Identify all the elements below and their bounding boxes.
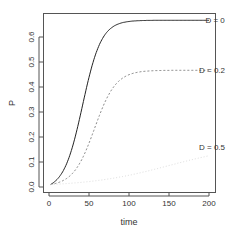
curve-label: D = 0.2: [199, 66, 226, 75]
y-tick-label: 0.4: [27, 81, 36, 93]
curve-D0: [51, 20, 209, 184]
curve-D05: [51, 156, 209, 185]
y-tick-label: 0.2: [27, 131, 36, 143]
x-tick-label: 200: [202, 199, 216, 208]
y-tick-label: 0.1: [27, 156, 36, 168]
x-axis-label: time: [120, 217, 137, 227]
x-tick-label: 150: [162, 199, 176, 208]
curves: [51, 20, 209, 184]
x-tick-label: 50: [85, 199, 94, 208]
y-axis: 0.00.10.20.30.40.50.6: [27, 31, 43, 193]
curve-labels: D = 0D = 0.2D = 0.5: [199, 16, 226, 152]
y-tick-label: 0.6: [27, 31, 36, 43]
x-axis: 050100150200: [47, 192, 216, 208]
y-tick-label: 0.3: [27, 106, 36, 118]
y-axis-label: P: [7, 100, 17, 106]
curve-D02: [51, 70, 209, 184]
curve-label: D = 0.5: [199, 143, 226, 152]
x-tick-label: 0: [47, 199, 52, 208]
plot-frame: [44, 14, 216, 193]
y-tick-label: 0.5: [27, 56, 36, 68]
curve-label: D = 0: [205, 16, 225, 25]
x-tick-label: 100: [122, 199, 136, 208]
chart: 050100150200 0.00.10.20.30.40.50.6 D = 0…: [0, 0, 228, 235]
y-tick-label: 0.0: [27, 181, 36, 193]
